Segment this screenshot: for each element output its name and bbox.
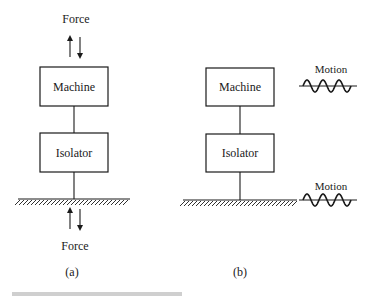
panel-a: Force Machine Isolator Force (a) — [15, 12, 130, 279]
motion-wave-icon — [303, 194, 351, 206]
isolator-label: Isolator — [56, 146, 93, 160]
panel-a-label: (a) — [65, 265, 78, 279]
panel-b: Machine Isolator Motion Motion (b) — [180, 63, 357, 279]
bottom-motion-label: Motion — [315, 180, 348, 192]
vibration-isolation-diagram: Force Machine Isolator Force (a) Machine… — [0, 0, 375, 297]
caption-fragment — [12, 292, 182, 296]
panel-b-label: (b) — [233, 265, 247, 279]
ground-hatching — [180, 201, 297, 206]
motion-wave-icon — [303, 80, 351, 92]
machine-label: Machine — [53, 80, 95, 94]
bottom-force-label: Force — [61, 239, 88, 253]
machine-label: Machine — [219, 80, 261, 94]
ground-hatching — [15, 200, 128, 205]
diagram-canvas: Force Machine Isolator Force (a) Machine… — [0, 0, 375, 297]
figure-caption-partial — [12, 292, 182, 296]
isolator-label: Isolator — [222, 146, 259, 160]
top-motion-label: Motion — [315, 63, 348, 75]
top-force-label: Force — [62, 12, 89, 26]
